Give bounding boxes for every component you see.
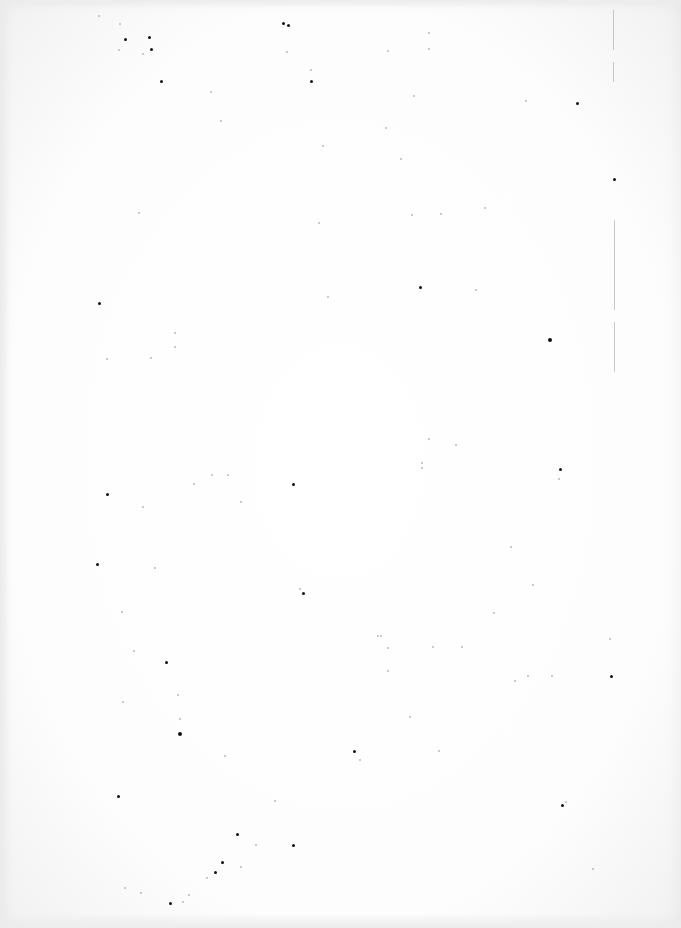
dust-speck bbox=[150, 357, 152, 359]
dust-speck bbox=[440, 213, 442, 215]
dust-speck bbox=[98, 302, 101, 305]
dust-speck bbox=[380, 635, 382, 637]
dust-speck bbox=[119, 23, 121, 25]
scan-edge-top bbox=[0, 0, 681, 8]
dust-speck bbox=[287, 24, 290, 27]
dust-speck bbox=[106, 358, 108, 360]
dust-speck bbox=[227, 474, 229, 476]
dust-speck bbox=[224, 755, 226, 757]
dust-speck bbox=[117, 795, 120, 798]
dust-speck bbox=[210, 91, 212, 93]
dust-speck bbox=[122, 701, 124, 703]
dust-speck bbox=[419, 286, 422, 289]
dust-speck bbox=[455, 444, 457, 446]
dust-speck bbox=[188, 894, 190, 896]
dust-speck bbox=[178, 732, 182, 736]
dust-speck bbox=[428, 438, 430, 440]
dust-speck bbox=[302, 592, 305, 595]
dust-speck bbox=[118, 49, 120, 51]
dust-speck bbox=[165, 661, 168, 664]
margin-line bbox=[614, 322, 615, 372]
dust-speck bbox=[106, 493, 109, 496]
dust-speck bbox=[428, 48, 430, 50]
dust-speck bbox=[214, 871, 217, 874]
dust-speck bbox=[292, 844, 295, 847]
dust-speck bbox=[421, 462, 423, 464]
dust-speck bbox=[160, 80, 163, 83]
dust-speck bbox=[299, 588, 301, 590]
margin-line bbox=[613, 10, 614, 50]
dust-speck bbox=[282, 22, 285, 25]
dust-speck bbox=[310, 80, 313, 83]
dust-speck bbox=[387, 670, 389, 672]
dust-speck bbox=[148, 36, 151, 39]
dust-speck bbox=[142, 506, 144, 508]
dust-speck bbox=[211, 474, 213, 476]
dust-speck bbox=[174, 332, 176, 334]
dust-speck bbox=[240, 866, 242, 868]
dust-speck bbox=[551, 675, 553, 677]
dust-speck bbox=[592, 868, 594, 870]
dust-speck bbox=[124, 38, 127, 41]
dust-speck bbox=[377, 635, 379, 637]
dust-speck bbox=[475, 289, 477, 291]
dust-speck bbox=[124, 887, 126, 889]
dust-speck bbox=[527, 675, 529, 677]
margin-line bbox=[613, 62, 614, 82]
dust-speck bbox=[413, 95, 415, 97]
dust-speck bbox=[565, 801, 567, 803]
dust-speck bbox=[240, 501, 242, 503]
dust-speck bbox=[558, 478, 560, 480]
dust-speck bbox=[174, 346, 176, 348]
dust-speck bbox=[179, 718, 181, 720]
dust-speck bbox=[359, 759, 361, 761]
dust-speck bbox=[322, 145, 324, 147]
dust-speck bbox=[514, 680, 516, 682]
scan-edge-bottom bbox=[0, 914, 681, 928]
dust-speck bbox=[510, 546, 512, 548]
dust-speck bbox=[353, 750, 356, 753]
dust-speck bbox=[610, 675, 613, 678]
dust-speck bbox=[421, 467, 423, 469]
dust-speck bbox=[96, 563, 99, 566]
dust-speck bbox=[318, 222, 320, 224]
dust-speck bbox=[182, 901, 184, 903]
dust-speck bbox=[385, 127, 387, 129]
dust-speck bbox=[177, 694, 179, 696]
blank-document-page bbox=[0, 0, 681, 928]
dust-speck bbox=[150, 48, 153, 51]
dust-speck bbox=[400, 158, 402, 160]
dust-speck bbox=[484, 207, 486, 209]
dust-speck bbox=[133, 650, 135, 652]
dust-speck bbox=[387, 50, 389, 52]
dust-speck bbox=[221, 861, 224, 864]
dust-speck bbox=[193, 483, 195, 485]
dust-speck bbox=[140, 892, 142, 894]
dust-speck bbox=[387, 647, 389, 649]
dust-speck bbox=[236, 833, 239, 836]
dust-speck bbox=[428, 32, 430, 34]
dust-speck bbox=[532, 584, 534, 586]
dust-speck bbox=[142, 53, 144, 55]
dust-speck bbox=[220, 120, 222, 122]
dust-speck bbox=[548, 338, 552, 342]
dust-speck bbox=[559, 468, 562, 471]
dust-speck bbox=[154, 567, 156, 569]
dust-speck bbox=[525, 100, 527, 102]
dust-speck bbox=[493, 612, 495, 614]
dust-speck bbox=[310, 69, 312, 71]
dust-speck bbox=[138, 212, 140, 214]
dust-speck bbox=[255, 844, 257, 846]
dust-speck bbox=[438, 750, 440, 752]
dust-speck bbox=[461, 646, 463, 648]
dust-speck bbox=[327, 296, 329, 298]
dust-speck bbox=[169, 902, 172, 905]
dust-speck bbox=[609, 638, 611, 640]
dust-speck bbox=[432, 646, 434, 648]
dust-speck bbox=[274, 800, 276, 802]
scan-edge-left bbox=[0, 0, 10, 928]
dust-speck bbox=[613, 178, 616, 181]
dust-speck bbox=[411, 214, 413, 216]
margin-line bbox=[614, 220, 615, 310]
dust-speck bbox=[561, 804, 564, 807]
